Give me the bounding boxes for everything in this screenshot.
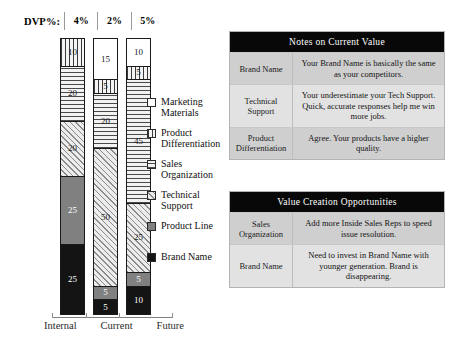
chart-panel: DVP%: 4% 2% 5% 1020202525 155205055 1054… xyxy=(0,0,228,349)
notes-table-row: Brand NameYour Brand Name is basically t… xyxy=(230,52,444,84)
opportunities-table-row: Sales OrganizationAdd more Inside Sales … xyxy=(230,212,444,244)
x-axis-tick xyxy=(86,313,87,318)
legend-item: Technical Support xyxy=(147,189,229,213)
x-axis-tick xyxy=(119,313,120,318)
bar-segment: 20 xyxy=(61,67,84,122)
x-axis-labels: Internal Current Future xyxy=(44,320,184,331)
bar-segment-value: 50 xyxy=(101,213,110,222)
stacked-bar-internal: 1020202525 xyxy=(60,38,85,315)
bar-segment-value: 25 xyxy=(68,206,77,215)
bar-segment: 50 xyxy=(94,149,117,287)
bar-segment-value: 45 xyxy=(134,137,143,146)
dvp-value-current: 2% xyxy=(97,12,130,30)
opportunities-table-body: Sales OrganizationAdd more Inside Sales … xyxy=(230,212,444,287)
bar-segment: 5 xyxy=(94,300,117,314)
opportunities-table-title: Value Creation Opportunities xyxy=(230,192,444,212)
bar-segment-value: 5 xyxy=(136,275,141,284)
legend-swatch-icon xyxy=(147,129,156,138)
bar-segment-value: 20 xyxy=(101,117,110,126)
legend-label: Technical Support xyxy=(161,189,229,211)
bar-segment: 25 xyxy=(61,177,84,246)
bar-segment-value: 25 xyxy=(68,275,77,284)
chart-legend: Marketing MaterialsProduct Differentiati… xyxy=(147,96,229,282)
legend-item: Marketing Materials xyxy=(147,96,229,120)
legend-label: Product Line xyxy=(161,220,213,231)
legend-label: Brand Name xyxy=(161,251,212,262)
x-axis-line xyxy=(52,317,172,318)
dvp-value-future: 5% xyxy=(131,12,164,30)
bar-segment-value: 5 xyxy=(136,68,141,77)
dvp-value-internal: 4% xyxy=(64,12,97,30)
bar-segment: 10 xyxy=(127,39,150,67)
opportunities-table-category: Sales Organization xyxy=(230,213,293,244)
x-axis-tick xyxy=(52,313,53,318)
x-axis-label-internal: Internal xyxy=(44,320,77,331)
opportunities-table-row: Brand NameNeed to invest in Brand Name w… xyxy=(230,244,444,287)
bar-segment: 25 xyxy=(61,245,84,314)
legend-swatch-icon xyxy=(147,98,156,107)
notes-table-title: Notes on Current Value xyxy=(230,32,444,52)
notes-table-category: Brand Name xyxy=(230,53,293,84)
legend-swatch-icon xyxy=(147,222,156,231)
bar-segment-value: 25 xyxy=(134,233,143,242)
legend-label: Product Differentiation xyxy=(161,127,229,149)
bar-segment: 20 xyxy=(61,122,84,177)
notes-table-row: Product DifferentiationAgree. Your produ… xyxy=(230,127,444,159)
bar-segment-value: 10 xyxy=(134,296,143,305)
dvp-label: DVP%: xyxy=(24,16,64,27)
notes-table-note: Your Brand Name is basically the same as… xyxy=(293,53,444,84)
opportunities-table-category: Brand Name xyxy=(230,245,293,287)
bar-segment-value: 5 xyxy=(103,303,108,312)
bar-segment-value: 5 xyxy=(103,288,108,297)
stacked-bar-current: 155205055 xyxy=(93,38,118,315)
legend-item: Brand Name xyxy=(147,251,229,275)
x-axis-label-future: Future xyxy=(157,320,184,331)
value-creation-opportunities-table: Value Creation Opportunities Sales Organ… xyxy=(229,191,445,288)
legend-swatch-icon xyxy=(147,253,156,262)
x-axis-tick xyxy=(172,313,173,318)
bar-segment: 5 xyxy=(94,80,117,94)
bar-segment: 20 xyxy=(94,94,117,149)
legend-swatch-icon xyxy=(147,160,156,169)
bar-segment: 10 xyxy=(61,39,84,67)
bar-segment-value: 10 xyxy=(134,48,143,57)
notes-table-note: Your underestimate your Tech Support. Qu… xyxy=(293,85,444,127)
opportunities-table-note: Need to invest in Brand Name with younge… xyxy=(293,245,444,287)
bar-segment-value: 20 xyxy=(68,144,77,153)
bar-segment: 10 xyxy=(127,287,150,315)
notes-table-category: Product Differentiation xyxy=(230,128,293,159)
legend-label: Sales Organization xyxy=(161,158,229,180)
legend-item: Sales Organization xyxy=(147,158,229,182)
stacked-bar-chart-with-notes-slide: DVP%: 4% 2% 5% 1020202525 155205055 1054… xyxy=(0,0,455,349)
notes-table-note: Agree. Your products have a higher quali… xyxy=(293,128,444,159)
notes-on-current-value-table: Notes on Current Value Brand NameYour Br… xyxy=(229,31,445,160)
dvp-header-row: DVP%: 4% 2% 5% xyxy=(24,11,164,31)
legend-label: Marketing Materials xyxy=(161,96,229,118)
x-axis-label-current: Current xyxy=(101,320,133,331)
notes-table-category: Technical Support xyxy=(230,85,293,127)
bar-segment: 5 xyxy=(127,67,150,81)
legend-swatch-icon xyxy=(147,191,156,200)
notes-table-row: Technical SupportYour underestimate your… xyxy=(230,84,444,127)
bar-segment-value: 20 xyxy=(68,89,77,98)
legend-item: Product Differentiation xyxy=(147,127,229,151)
bar-segment-value: 5 xyxy=(103,82,108,91)
notes-table-body: Brand NameYour Brand Name is basically t… xyxy=(230,52,444,159)
legend-item: Product Line xyxy=(147,220,229,244)
bar-segment-value: 15 xyxy=(101,55,110,64)
bar-segment-value: 10 xyxy=(68,48,77,57)
bar-segment: 15 xyxy=(94,39,117,80)
opportunities-table-note: Add more Inside Sales Reps to speed issu… xyxy=(293,213,444,244)
bar-segment: 5 xyxy=(94,287,117,301)
